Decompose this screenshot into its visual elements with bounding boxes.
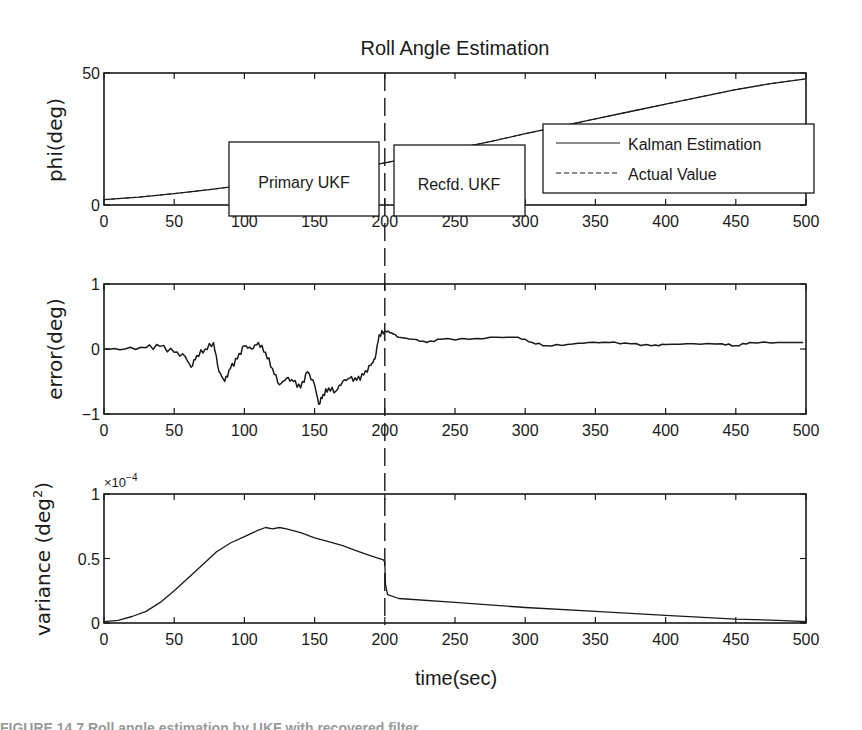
chart-title: Roll Angle Estimation — [361, 37, 550, 59]
x-tick-label: 350 — [582, 213, 609, 230]
svg-text:Primary UKF: Primary UKF — [258, 174, 350, 191]
series-line — [104, 528, 806, 622]
x-tick-label: 300 — [512, 422, 539, 439]
y-tick-label: 0 — [91, 341, 100, 358]
x-tick-label: 0 — [100, 213, 109, 230]
xlabel-time: time(sec) — [415, 667, 497, 689]
x-tick-label: 350 — [582, 422, 609, 439]
x-tick-label: 200 — [371, 631, 398, 648]
x-tick-label: 50 — [165, 422, 183, 439]
ylabel-phi: phi(deg) — [43, 98, 67, 182]
ylabel-error: error(deg) — [43, 298, 67, 400]
x-tick-label: 150 — [301, 631, 328, 648]
y-tick-label: 0 — [91, 197, 100, 214]
annotation-primary-ukf: Primary UKF — [229, 142, 379, 216]
y-tick-label: −1 — [82, 406, 100, 423]
x-tick-label: 500 — [793, 213, 820, 230]
panel-variance: 05010015020025030035040045050000.51 — [78, 486, 820, 648]
x-tick-label: 350 — [582, 631, 609, 648]
svg-text:Recfd. UKF: Recfd. UKF — [418, 176, 501, 193]
x-tick-label: 450 — [722, 422, 749, 439]
y-tick-label: 1 — [91, 276, 100, 293]
y-tick-label: 0 — [91, 615, 100, 632]
y-exponent-label: ×10−4 — [104, 472, 138, 490]
y-tick-label: 1 — [91, 486, 100, 503]
legend-label-actual: Actual Value — [628, 166, 717, 183]
plot-frame — [104, 284, 806, 414]
x-tick-label: 500 — [793, 631, 820, 648]
x-tick-label: 250 — [442, 631, 469, 648]
figure-caption: FIGURE 14.7 Roll angle estimation by UKF… — [0, 716, 862, 730]
x-tick-label: 0 — [100, 631, 109, 648]
legend-label-kalman: Kalman Estimation — [628, 136, 761, 153]
x-tick-label: 250 — [442, 422, 469, 439]
y-tick-label: 50 — [82, 65, 100, 82]
x-tick-label: 50 — [165, 213, 183, 230]
x-tick-label: 100 — [231, 422, 258, 439]
x-tick-label: 400 — [652, 213, 679, 230]
series-line — [104, 330, 803, 404]
x-tick-label: 0 — [100, 422, 109, 439]
panel-error: 050100150200250300350400450500−101 — [82, 276, 820, 439]
ylabel-variance: variance (deg2) — [30, 482, 55, 636]
x-tick-label: 150 — [301, 422, 328, 439]
annotation-recfd-ukf: Recfd. UKF — [394, 145, 525, 216]
x-tick-label: 300 — [512, 631, 539, 648]
x-tick-label: 400 — [652, 422, 679, 439]
x-tick-label: 400 — [652, 631, 679, 648]
x-tick-label: 50 — [165, 631, 183, 648]
x-tick-label: 450 — [722, 213, 749, 230]
x-tick-label: 450 — [722, 631, 749, 648]
x-tick-label: 100 — [231, 631, 258, 648]
y-tick-label: 0.5 — [78, 551, 100, 568]
x-tick-label: 500 — [793, 422, 820, 439]
legend: Kalman Estimation Actual Value — [543, 124, 814, 193]
